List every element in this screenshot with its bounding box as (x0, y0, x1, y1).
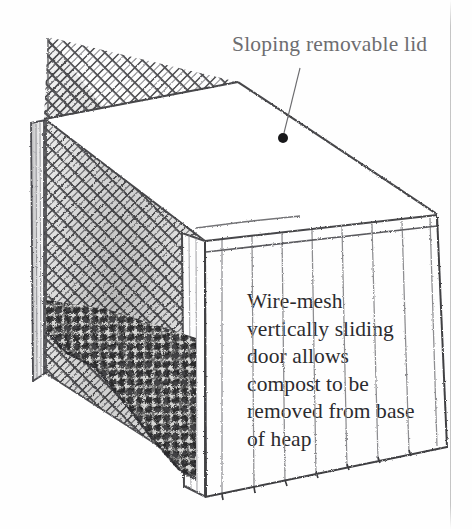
illustration-canvas: Sloping removable lid Wire-mesh vertical… (0, 0, 472, 529)
lid-leader-line (284, 68, 300, 133)
lid-callout (0, 0, 472, 529)
lid-callout-dot (278, 133, 288, 143)
